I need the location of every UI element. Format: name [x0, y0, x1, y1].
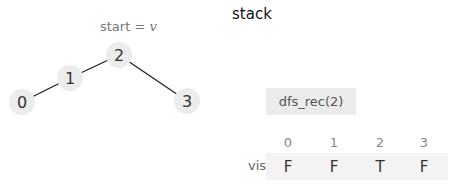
start-label-var: v — [149, 19, 156, 34]
svg-text:0: 0 — [17, 93, 27, 112]
visited-cell-1: F — [324, 158, 344, 176]
svg-text:3: 3 — [182, 92, 192, 111]
svg-text:1: 1 — [65, 69, 75, 88]
stack-frame: dfs_rec(2) — [266, 88, 356, 115]
visited-index-1: 1 — [324, 135, 344, 150]
start-label-prefix: start = — [100, 19, 149, 34]
visited-cell-0: F — [278, 158, 298, 176]
graph-node-3: 3 — [174, 88, 200, 114]
visited-index-0: 0 — [278, 135, 298, 150]
visited-cell-3: F — [414, 158, 434, 176]
svg-text:2: 2 — [114, 46, 124, 65]
visited-index-3: 3 — [414, 135, 434, 150]
start-label: start = v — [100, 19, 157, 34]
visited-index-2: 2 — [370, 135, 390, 150]
graph-node-1: 1 — [57, 65, 83, 91]
stack-title: stack — [232, 5, 272, 23]
graph-node-0: 0 — [9, 89, 35, 115]
visited-cell-2: T — [370, 158, 390, 176]
graph-node-2: 2 — [106, 42, 132, 68]
